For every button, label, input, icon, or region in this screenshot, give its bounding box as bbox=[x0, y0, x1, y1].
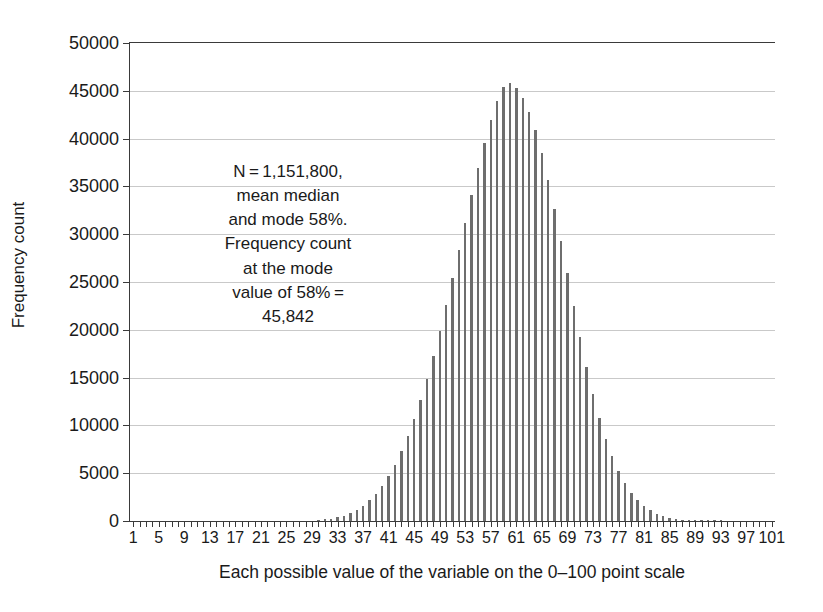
bar bbox=[439, 331, 441, 521]
x-axis-tick-mark bbox=[599, 521, 600, 527]
x-axis-tick-mark bbox=[216, 521, 217, 527]
bar bbox=[477, 168, 479, 521]
x-axis-tick-mark bbox=[714, 521, 715, 527]
x-axis-tick-label: 25 bbox=[278, 530, 296, 546]
x-axis-tick-label: 93 bbox=[712, 530, 730, 546]
x-axis-tick-label: 17 bbox=[226, 530, 244, 546]
x-axis-tick-mark bbox=[523, 521, 524, 527]
x-axis-tick-mark bbox=[721, 521, 722, 527]
x-axis-tick-mark bbox=[631, 521, 632, 527]
x-axis-tick-mark bbox=[459, 521, 460, 527]
x-axis-tick-label: 101 bbox=[758, 530, 785, 546]
x-axis-tick-mark bbox=[414, 521, 415, 527]
bar bbox=[368, 500, 370, 521]
bar bbox=[394, 465, 396, 521]
x-axis-tick-mark bbox=[363, 521, 364, 527]
y-axis-tick-label: 45000 bbox=[69, 82, 119, 100]
chart-annotation: N = 1,151,800, mean median and mode 58%.… bbox=[193, 160, 383, 329]
x-axis-tick-mark bbox=[663, 521, 664, 527]
x-axis-tick-mark bbox=[504, 521, 505, 527]
bar bbox=[375, 494, 377, 521]
x-axis-tick-label: 1 bbox=[129, 530, 138, 546]
x-axis-tick-label: 29 bbox=[303, 530, 321, 546]
y-axis-tick-mark bbox=[123, 378, 130, 379]
x-axis-tick-mark bbox=[702, 521, 703, 527]
x-axis-tick-label: 33 bbox=[329, 530, 347, 546]
x-axis-tick-mark bbox=[152, 521, 153, 527]
y-axis-tick-mark bbox=[123, 139, 130, 140]
y-axis-tick-label: 10000 bbox=[69, 416, 119, 434]
x-axis-tick-mark bbox=[472, 521, 473, 527]
x-axis-tick-mark bbox=[306, 521, 307, 527]
bar bbox=[419, 400, 421, 521]
x-axis-tick-mark bbox=[676, 521, 677, 527]
x-axis-tick-mark bbox=[255, 521, 256, 527]
x-axis-tick-mark bbox=[261, 521, 262, 527]
x-axis-tick-mark bbox=[587, 521, 588, 527]
x-axis-tick-mark bbox=[548, 521, 549, 527]
x-axis-tick-label: 69 bbox=[559, 530, 577, 546]
x-axis-tick-mark bbox=[689, 521, 690, 527]
x-axis-tick-mark bbox=[638, 521, 639, 527]
x-axis-tick-label: 45 bbox=[405, 530, 423, 546]
y-axis-tick-label: 5000 bbox=[79, 464, 119, 482]
bar bbox=[509, 83, 511, 521]
bar bbox=[470, 195, 472, 521]
bar bbox=[496, 101, 498, 521]
bar bbox=[387, 476, 389, 521]
bar bbox=[585, 367, 587, 521]
x-axis-tick-mark bbox=[357, 521, 358, 527]
x-axis-tick-mark bbox=[280, 521, 281, 527]
x-axis-tick-mark bbox=[331, 521, 332, 527]
x-axis-tick-mark bbox=[453, 521, 454, 527]
x-axis-tick-mark bbox=[184, 521, 185, 527]
x-axis-tick-label: 57 bbox=[482, 530, 500, 546]
x-axis-tick-mark bbox=[733, 521, 734, 527]
x-axis-tick-mark bbox=[529, 521, 530, 527]
bar bbox=[381, 486, 383, 521]
x-axis-tick-label: 65 bbox=[533, 530, 551, 546]
x-axis-tick-mark bbox=[312, 521, 313, 527]
y-axis-tick-label: 50000 bbox=[69, 34, 119, 52]
y-axis-tick-mark bbox=[123, 521, 130, 522]
x-axis-tick-mark bbox=[382, 521, 383, 527]
bar bbox=[534, 130, 536, 521]
x-axis-tick-mark bbox=[350, 521, 351, 527]
y-axis-tick-label: 0 bbox=[109, 512, 119, 530]
x-axis-tick-mark bbox=[159, 521, 160, 527]
x-axis-tick-mark bbox=[478, 521, 479, 527]
x-axis-tick-label: 89 bbox=[686, 530, 704, 546]
x-axis-tick-mark bbox=[274, 521, 275, 527]
x-axis-tick-label: 53 bbox=[456, 530, 474, 546]
x-axis-tick-mark bbox=[516, 521, 517, 527]
x-axis-tick-label: 9 bbox=[180, 530, 189, 546]
x-axis-tick-mark bbox=[338, 521, 339, 527]
x-axis-tick-mark bbox=[772, 521, 773, 527]
x-axis-tick-mark bbox=[344, 521, 345, 527]
x-axis-tick-label: 85 bbox=[661, 530, 679, 546]
x-axis-tick-mark bbox=[759, 521, 760, 527]
x-axis-tick-label: 13 bbox=[201, 530, 219, 546]
bar bbox=[349, 513, 351, 521]
y-axis-tick-mark bbox=[123, 186, 130, 187]
bar bbox=[553, 209, 555, 521]
bar bbox=[624, 483, 626, 521]
bar bbox=[617, 471, 619, 521]
bar bbox=[400, 451, 402, 521]
x-axis-tick-mark bbox=[165, 521, 166, 527]
x-axis-tick-mark bbox=[497, 521, 498, 527]
bar bbox=[426, 379, 428, 521]
bar bbox=[566, 273, 568, 521]
x-axis-tick-label: 41 bbox=[380, 530, 398, 546]
bar bbox=[656, 514, 658, 521]
y-axis-tick-mark bbox=[123, 282, 130, 283]
bar bbox=[515, 88, 517, 521]
x-axis-tick-mark bbox=[670, 521, 671, 527]
x-axis-tick-mark bbox=[542, 521, 543, 527]
x-axis-tick-label: 49 bbox=[431, 530, 449, 546]
x-axis-tick-mark bbox=[644, 521, 645, 527]
x-axis-tick-label: 37 bbox=[354, 530, 372, 546]
y-axis-tick-label: 20000 bbox=[69, 321, 119, 339]
x-axis-tick-mark bbox=[561, 521, 562, 527]
x-axis-tick-mark bbox=[325, 521, 326, 527]
